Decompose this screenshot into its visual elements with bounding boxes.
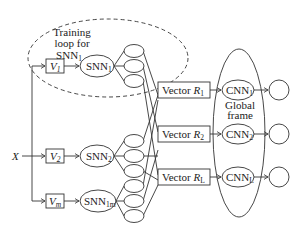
snn-2: SNN2 — [80, 145, 114, 167]
v-box-1: V1 — [46, 59, 64, 74]
svg-text:CNN1: CNN1 — [226, 84, 253, 98]
output-node-1 — [269, 80, 289, 100]
svg-text:Vector RL: Vector RL — [162, 171, 205, 185]
snn-1: SNN1 — [80, 55, 114, 77]
vector-box-rl: Vector RL — [158, 169, 210, 185]
snn-output-nodes — [124, 45, 144, 223]
snn-fanout-lines — [114, 51, 124, 216]
vector-box-r2: Vector R2 — [158, 126, 210, 142]
output-node-l — [269, 167, 289, 187]
neural-network-diagram: Training loop for SNN1 X V1 V2 Vm SNN1 S… — [0, 0, 298, 234]
v-box-2: V2 — [46, 149, 64, 164]
cnn-1: CNN1 — [222, 80, 254, 100]
output-node-2 — [269, 124, 289, 144]
svg-text:CNN2: CNN2 — [226, 128, 253, 142]
svg-text:Vector R2: Vector R2 — [162, 128, 204, 142]
input-x-label: X — [11, 150, 20, 162]
global-frame-label-2: frame — [227, 109, 253, 121]
svg-text:Vector R1: Vector R1 — [162, 84, 204, 98]
vector-box-r1: Vector R1 — [158, 82, 210, 98]
cnn-l: CNNL — [222, 167, 254, 187]
training-loop-label-2: loop for — [54, 37, 89, 49]
cross-connection-lines — [143, 51, 158, 216]
snn-1m: SNN1m — [80, 190, 116, 212]
v-box-m: Vm — [46, 194, 64, 209]
cnn-2: CNN2 — [222, 124, 254, 144]
